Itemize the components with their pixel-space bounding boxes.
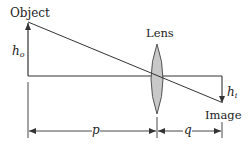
lens-label: Lens [146,26,174,40]
object-height-label: ho [12,44,25,59]
lens-diagram: Object Lens Image ho hi p q [0,0,252,146]
object-label: Object [10,6,50,20]
image-height-label: hi [227,85,238,100]
image-distance-label: q [184,123,192,137]
lens-shape [151,44,163,114]
object-distance-label: p [92,123,100,137]
principal-ray [28,22,221,102]
image-label: Image [205,108,242,122]
